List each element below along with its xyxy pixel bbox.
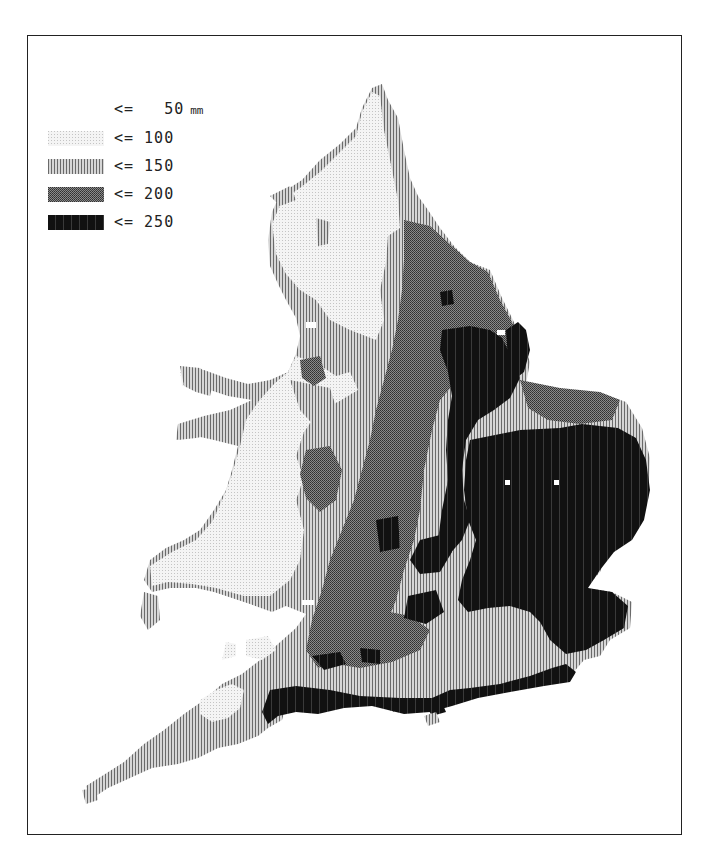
legend-label: <= 100 xyxy=(114,129,174,147)
legend-label: <= 50mm xyxy=(114,100,203,118)
legend-swatch xyxy=(48,215,104,230)
legend-swatch xyxy=(48,159,104,174)
legend-swatch xyxy=(48,187,104,202)
legend-item-250: <= 250 xyxy=(48,213,248,233)
legend-label: <= 250 xyxy=(114,213,174,231)
legend-label: <= 150 xyxy=(114,157,174,175)
legend-item-100: <= 100 xyxy=(48,129,248,149)
legend-item-50: <= 50mm xyxy=(48,100,248,120)
legend-label: <= 200 xyxy=(114,185,174,203)
legend-item-200: <= 200 xyxy=(48,185,248,205)
legend-swatch xyxy=(48,102,104,117)
legend-swatch xyxy=(48,131,104,146)
legend-item-150: <= 150 xyxy=(48,157,248,177)
